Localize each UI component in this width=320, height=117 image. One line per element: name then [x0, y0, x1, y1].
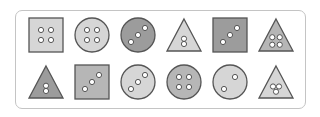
circle-icon: [119, 63, 157, 101]
square-icon: [27, 16, 65, 54]
shape-triangle-r1c4[interactable]: [165, 16, 203, 54]
triangle-icon: [257, 63, 295, 101]
shape-circle-r1c2[interactable]: [73, 16, 111, 54]
circle-icon: [165, 63, 203, 101]
shape-square-r2c2[interactable]: [73, 63, 111, 101]
shape-triangle-r2c6[interactable]: [257, 63, 295, 101]
shape-triangle-r1c6[interactable]: [257, 16, 295, 54]
triangle-icon: [27, 63, 65, 101]
shape-circle-r2c3[interactable]: [119, 63, 157, 101]
shape-square-r1c1[interactable]: [27, 16, 65, 54]
circle-icon: [73, 16, 111, 54]
shape-circle-r1c3[interactable]: [119, 16, 157, 54]
square-icon: [211, 16, 249, 54]
square-icon: [73, 63, 111, 101]
circle-icon: [119, 16, 157, 54]
circle-icon: [211, 63, 249, 101]
shape-circle-r2c5[interactable]: [211, 63, 249, 101]
triangle-icon: [165, 16, 203, 54]
shape-circle-r2c4[interactable]: [165, 63, 203, 101]
shape-square-r1c5[interactable]: [211, 16, 249, 54]
shape-grid: [0, 0, 320, 117]
shape-triangle-r2c1[interactable]: [27, 63, 65, 101]
triangle-icon: [257, 16, 295, 54]
